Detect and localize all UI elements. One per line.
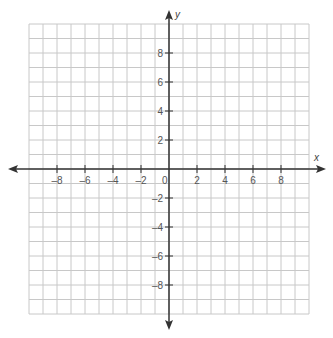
y-tick-label: 2 xyxy=(157,135,163,146)
x-tick-label: 4 xyxy=(222,175,228,186)
x-tick-label: –8 xyxy=(51,175,63,186)
axes xyxy=(8,10,326,330)
y-tick-label: –8 xyxy=(152,280,164,291)
x-tick-label: 2 xyxy=(194,175,200,186)
x-tick-label: –6 xyxy=(79,175,91,186)
y-axis-label: y xyxy=(174,9,181,20)
y-tick-label: 4 xyxy=(157,106,163,117)
y-tick-label: –4 xyxy=(152,222,164,233)
y-tick-label: –6 xyxy=(152,251,164,262)
x-tick-label: –2 xyxy=(135,175,147,186)
y-tick-label: –2 xyxy=(152,193,164,204)
x-axis-label: x xyxy=(313,152,320,163)
x-tick-label: 6 xyxy=(250,175,256,186)
y-tick-label: 8 xyxy=(157,48,163,59)
x-tick-label: –4 xyxy=(107,175,119,186)
x-tick-label: 8 xyxy=(278,175,284,186)
y-tick-label: 6 xyxy=(157,77,163,88)
origin-label: 0 xyxy=(162,175,168,186)
coordinate-plane: –8–6–4–224688642–2–4–6–8 x y 0 xyxy=(0,0,333,338)
